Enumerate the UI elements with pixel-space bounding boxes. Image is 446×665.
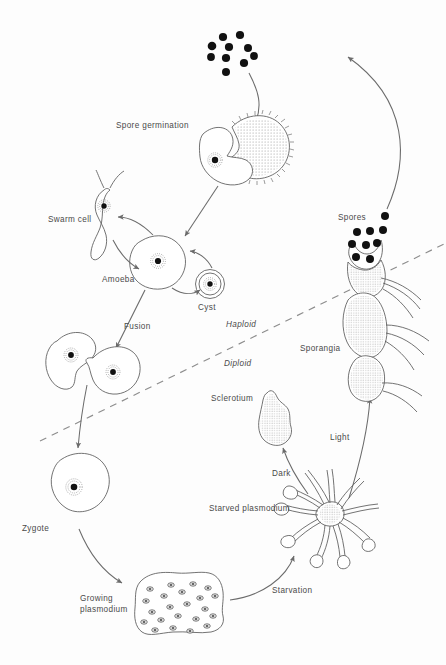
label-growing-plasmodium-line2: plasmodium — [80, 605, 128, 614]
label-fusion: Fusion — [124, 322, 151, 331]
arrow-amoeba-to-cyst — [172, 288, 200, 294]
arrow-amoeba-to-swarmcell — [118, 217, 153, 235]
label-sporangia: Sporangia — [300, 344, 341, 353]
starved-plasmodium-cell — [274, 469, 379, 569]
arrow-germination-to-amoeba — [185, 186, 218, 236]
label-amoeba: Amoeba — [102, 275, 135, 284]
label-cyst: Cyst — [198, 303, 216, 312]
amoeba-cell — [130, 236, 186, 289]
swarm-cell — [91, 170, 124, 260]
arrow-amoeba-to-fusion — [116, 290, 145, 348]
lifecycle-canvas: Spore germination Swarm cell Amoeba — [0, 0, 446, 665]
label-zygote: Zygote — [22, 524, 49, 533]
sclerotium-cell — [259, 391, 292, 446]
label-haploid: Haploid — [226, 320, 256, 329]
arrow-cyst-to-amoeba — [190, 251, 212, 268]
label-starvation: Starvation — [272, 586, 312, 595]
sporangia-cell — [343, 240, 429, 412]
zygote-cell — [51, 453, 109, 511]
capillitium-threads — [381, 278, 429, 412]
label-starved-plasmodium: Starved plasmodium — [209, 504, 290, 513]
arrow-spores-to-top — [348, 57, 400, 209]
arrow-zygote-to-plasmodium — [79, 529, 122, 583]
label-spore-germination: Spore germination — [116, 121, 189, 130]
label-light: Light — [330, 433, 350, 442]
arrow-light-to-sporangia — [349, 398, 370, 498]
arrow-spores-to-germination — [249, 73, 259, 121]
growing-plasmodium-cell — [135, 572, 224, 634]
arrow-fusion-to-zygote — [78, 385, 87, 448]
spore-germination-cell — [199, 110, 294, 185]
label-growing-plasmodium-line1: Growing — [80, 594, 113, 603]
spore-cluster-top — [207, 31, 258, 76]
fusion-cells — [46, 332, 140, 394]
slime-mold-lifecycle-diagram: Spore germination Swarm cell Amoeba — [0, 0, 446, 665]
label-diploid: Diploid — [224, 359, 252, 368]
label-spores: Spores — [338, 213, 366, 222]
label-swarm-cell: Swarm cell — [48, 215, 92, 224]
label-sclerotium: Sclerotium — [211, 394, 253, 403]
label-dark: Dark — [272, 469, 291, 478]
cyst-cell — [196, 270, 225, 299]
